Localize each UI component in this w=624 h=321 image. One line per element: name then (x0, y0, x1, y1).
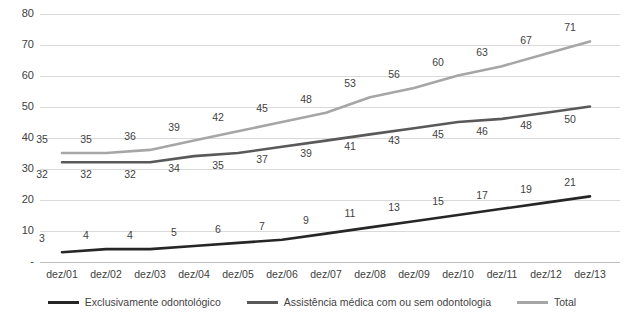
legend-line-swatch (247, 301, 278, 304)
legend-label: Exclusivamente odontológico (85, 296, 221, 308)
line-chart: -1020304050607080 3445679111315171921323… (0, 0, 624, 321)
legend-item-2[interactable]: Total (517, 296, 576, 308)
x-axis: dez/01dez/02dez/03dez/04dez/05dez/06dez/… (0, 0, 624, 321)
legend-line-swatch (517, 301, 548, 304)
legend-item-0[interactable]: Exclusivamente odontológico (48, 296, 221, 308)
legend-label: Total (554, 296, 576, 308)
legend-label: Assistência médica com ou sem odontologi… (284, 296, 491, 308)
legend-line-swatch (48, 301, 79, 304)
legend: Exclusivamente odontológicoAssistência m… (0, 296, 624, 321)
x-axis-tick: dez/13 (560, 268, 620, 280)
legend-item-1[interactable]: Assistência médica com ou sem odontologi… (247, 296, 491, 308)
